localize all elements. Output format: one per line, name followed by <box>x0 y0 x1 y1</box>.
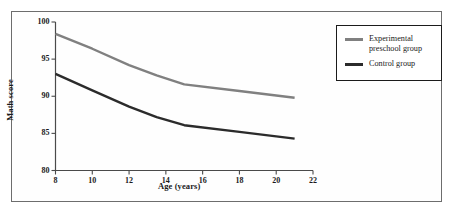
x-tick-label-14: 14 <box>154 176 178 185</box>
series-line-0 <box>56 34 295 98</box>
y-tick-label-95: 95 <box>12 54 50 63</box>
y-tick-label-80: 80 <box>12 166 50 175</box>
legend-color-swatch-experimental <box>345 38 363 41</box>
x-tick-label-18: 18 <box>227 176 251 185</box>
legend-label-experimental: Experimental preschool group <box>369 34 422 53</box>
legend-item-control: Control group <box>345 59 415 69</box>
y-tick-label-90: 90 <box>12 91 50 100</box>
x-tick-label-22: 22 <box>301 176 325 185</box>
chart-legend: Experimental preschool group Control gro… <box>336 25 442 81</box>
x-tick-label-20: 20 <box>264 176 288 185</box>
data-series-group <box>56 34 295 139</box>
series-line-1 <box>56 74 295 139</box>
x-tick-label-10: 10 <box>80 176 104 185</box>
x-axis-ticks <box>56 171 314 175</box>
legend-item-experimental: Experimental preschool group <box>345 34 422 53</box>
legend-color-swatch-control <box>345 63 363 66</box>
x-tick-label-8: 8 <box>44 176 68 185</box>
y-tick-label-100: 100 <box>12 17 50 26</box>
x-tick-label-16: 16 <box>191 176 215 185</box>
legend-label-control: Control group <box>369 59 415 69</box>
y-tick-label-85: 85 <box>12 128 50 137</box>
figure-container: Math score Age (years) 80859095100810121… <box>0 0 453 215</box>
x-tick-label-12: 12 <box>117 176 141 185</box>
